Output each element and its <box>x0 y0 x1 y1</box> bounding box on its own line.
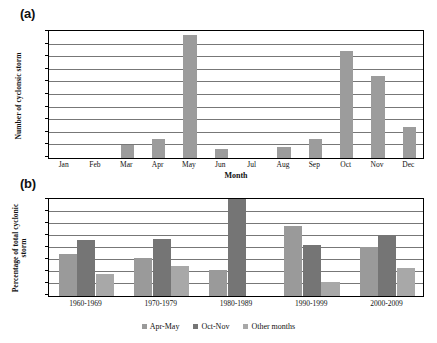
bar <box>397 268 415 296</box>
x-tick-label: Apr <box>142 161 173 169</box>
bar <box>360 247 378 296</box>
panel-b-label: (b) <box>20 176 36 191</box>
x-tick-label: 1960-1969 <box>48 300 123 308</box>
legend-item: Oct-Nov <box>193 322 229 331</box>
x-tick-label: May <box>173 161 204 169</box>
y-tick-mark <box>45 131 48 132</box>
x-tick-label: Jul <box>236 161 267 169</box>
gridline <box>49 132 423 133</box>
y-tick-mark <box>45 55 48 56</box>
panel-b-plot-area <box>48 198 424 297</box>
gridline <box>49 107 423 108</box>
y-tick-mark <box>45 222 48 223</box>
legend-item: Other months <box>243 322 295 331</box>
x-tick-label: 1990-1999 <box>274 300 349 308</box>
bar <box>321 282 339 296</box>
bar <box>152 139 165 158</box>
bar <box>183 35 196 158</box>
y-tick-mark <box>45 43 48 44</box>
bar <box>228 198 246 296</box>
x-tick-label: Feb <box>79 161 110 169</box>
x-tick-label: 1980-1989 <box>198 300 273 308</box>
gridline <box>49 69 423 70</box>
bar <box>371 76 384 158</box>
x-tick-label: Jan <box>48 161 79 169</box>
y-tick-mark <box>45 106 48 107</box>
y-tick-mark <box>45 258 48 259</box>
y-tick-mark <box>45 234 48 235</box>
x-tick-label: Oct <box>330 161 361 169</box>
panel-a-label: (a) <box>20 6 35 21</box>
x-tick-label: 2000-2009 <box>349 300 424 308</box>
gridline <box>49 94 423 95</box>
y-tick-mark <box>45 246 48 247</box>
bar <box>284 226 302 296</box>
bar <box>209 270 227 296</box>
x-tick-label: Mar <box>111 161 142 169</box>
y-tick-mark <box>45 210 48 211</box>
legend-swatch-icon <box>243 324 248 329</box>
bar <box>309 139 322 158</box>
bar <box>77 240 95 296</box>
gridline <box>49 81 423 82</box>
bar <box>171 266 189 296</box>
bar <box>303 245 321 296</box>
y-tick-mark <box>45 93 48 94</box>
panel-b-y-axis-label: Percentage of total cyclonic storm <box>12 200 34 296</box>
panel-a-y-axis-label: Number of cyclonsic storm <box>14 38 27 153</box>
legend-label: Other months <box>251 322 295 331</box>
x-tick-label: Sep <box>299 161 330 169</box>
gridline <box>49 44 423 45</box>
y-tick-mark <box>45 68 48 69</box>
figure-container: (a) (b) Number of cyclonsic storm 024681… <box>0 0 437 343</box>
bar <box>403 127 416 159</box>
bar <box>59 254 77 296</box>
legend-label: Apr-May <box>150 322 180 331</box>
bar <box>340 51 353 158</box>
y-tick-mark <box>45 270 48 271</box>
x-tick-label: 1970-1979 <box>123 300 198 308</box>
gridline <box>49 119 423 120</box>
panel-a-x-axis-label: Month <box>48 171 424 180</box>
y-tick-mark <box>45 156 48 157</box>
x-tick-label: Nov <box>361 161 392 169</box>
bar <box>153 239 171 296</box>
bar <box>121 145 134 158</box>
legend-item: Apr-May <box>142 322 180 331</box>
legend-swatch-icon <box>142 324 147 329</box>
y-tick-mark <box>45 198 48 199</box>
bar <box>215 149 228 158</box>
y-tick-mark <box>45 30 48 31</box>
y-tick-mark <box>45 80 48 81</box>
legend-swatch-icon <box>193 324 198 329</box>
bar <box>378 235 396 296</box>
bar <box>96 274 114 296</box>
panel-b-legend: Apr-MayOct-NovOther months <box>0 322 437 331</box>
x-tick-label: Dec <box>393 161 424 169</box>
legend-label: Oct-Nov <box>201 322 229 331</box>
bar <box>134 258 152 296</box>
y-tick-mark <box>45 143 48 144</box>
y-tick-mark <box>45 294 48 295</box>
y-tick-mark <box>45 282 48 283</box>
y-tick-mark <box>45 118 48 119</box>
x-tick-label: Aug <box>267 161 298 169</box>
x-tick-label: Jun <box>205 161 236 169</box>
gridline <box>49 144 423 145</box>
gridline <box>49 56 423 57</box>
panel-a-plot-area <box>48 30 424 159</box>
bar <box>277 147 290 158</box>
